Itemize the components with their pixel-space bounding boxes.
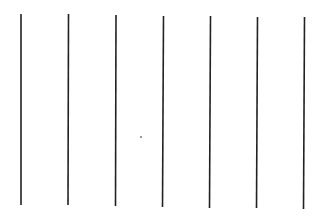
vertical-line-7 [304,17,305,209]
vertical-line-3 [116,15,117,206]
dot [140,136,142,138]
vertical-line-5 [210,16,211,208]
vertical-line-4 [163,16,164,207]
vertical-lines [21,14,305,209]
vertical-line-6 [257,17,258,208]
vertical-line-2 [68,14,69,205]
lines-figure [0,0,323,217]
